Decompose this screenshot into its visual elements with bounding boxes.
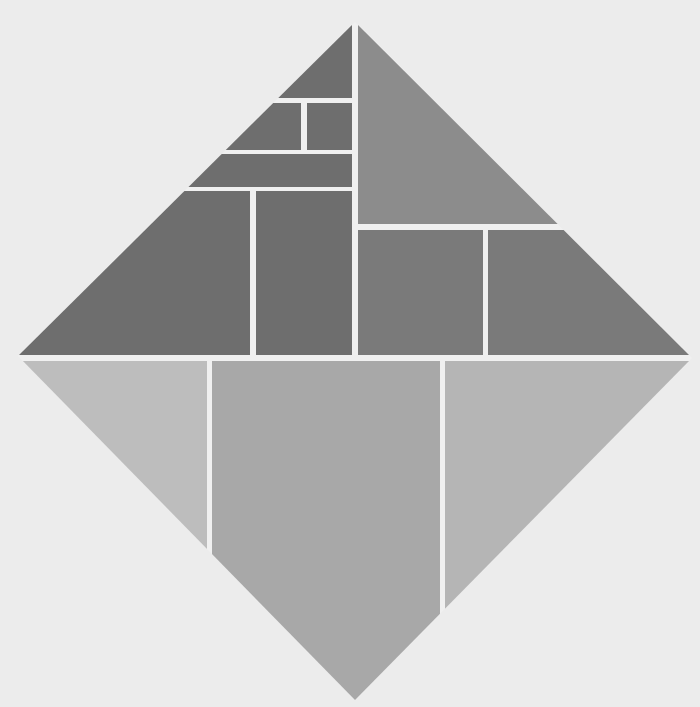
artwork-canvas [0,0,700,707]
panel-row4-right [256,191,352,355]
panel-right-mid-left [358,230,483,355]
panel-row2-right [307,103,352,150]
panel-bottom-right [445,361,700,707]
panel-row3 [0,154,352,187]
panel-right-mid-right [488,230,700,355]
diamond-composition [0,0,700,707]
panel-bottom-center [212,361,440,707]
panel-bottom-left [0,361,207,707]
panel-top-apex [0,0,352,98]
panel-row2-left [0,103,301,150]
panel-right-triangle [358,0,700,224]
panel-row4-left [0,191,250,355]
